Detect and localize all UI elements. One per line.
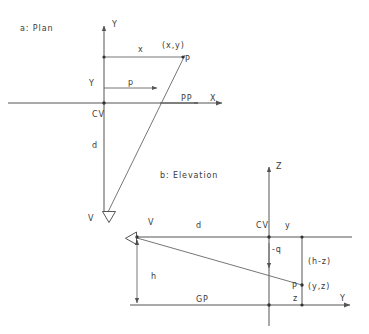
elevation-gp-node [267, 303, 270, 306]
elevation-title: b: Elevation [160, 171, 218, 180]
plan-y-node [102, 55, 105, 58]
plan-title: a: Plan [20, 24, 53, 33]
elevation-cv-label: CV [256, 221, 269, 230]
elevation-height-label: h [151, 272, 157, 281]
plan-viewpoint-triangle-icon [103, 212, 116, 223]
elevation-viewpoint-label: V [148, 218, 154, 227]
elevation-q-label: -q [272, 245, 282, 254]
elevation-z-axis-label: Z [276, 162, 282, 171]
plan-p-label: p [128, 78, 134, 87]
perspective-projection-diagram: a: Plan Y x (x,y) P Y p PP X CV d V [0, 0, 369, 334]
plan-cv-node [102, 101, 105, 104]
plan-diagram: a: Plan Y x (x,y) P Y p PP X CV d V [8, 20, 222, 223]
elevation-viewpoint-node [135, 235, 138, 238]
plan-sight-ray [108, 55, 185, 212]
elevation-ground-plane-label: GP [196, 295, 209, 304]
elevation-base-node [300, 303, 303, 306]
plan-distance-label: d [92, 141, 98, 150]
elevation-point-p-node [300, 283, 303, 286]
elevation-z-label: z [293, 294, 298, 303]
elevation-cv-node [267, 235, 270, 238]
elevation-distance-label: d [196, 221, 202, 230]
plan-coordinate-y-label: Y [88, 79, 95, 88]
elevation-ordinate-label: y [285, 221, 291, 230]
plan-y-axis-label: Y [111, 20, 118, 29]
plan-picture-plane-label: PP [181, 94, 192, 103]
elevation-height-diff-label: (h-z) [308, 257, 331, 266]
plan-point-p-label: P [185, 55, 191, 64]
elevation-point-coords-label: (y,z) [308, 282, 330, 291]
elevation-diagram: b: Elevation Z V d CV y -q (h-z) h P (y,… [126, 162, 353, 326]
elevation-viewpoint-triangle-icon [126, 232, 137, 245]
elevation-top-node [300, 235, 303, 238]
figure-canvas: a: Plan Y x (x,y) P Y p PP X CV d V [0, 0, 369, 334]
plan-viewpoint-label: V [88, 214, 94, 223]
plan-x-axis-label: X [210, 94, 216, 103]
plan-point-coords-label: (x,y) [162, 41, 185, 50]
plan-cv-label: CV [92, 110, 105, 119]
elevation-point-p-label: P [292, 282, 298, 291]
plan-x-offset-label: x [138, 45, 144, 54]
elevation-y-axis-label: Y [339, 294, 346, 303]
